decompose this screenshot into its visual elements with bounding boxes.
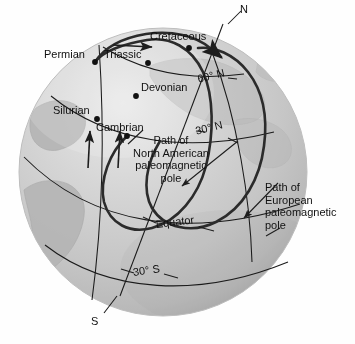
label-permian: Permian xyxy=(44,48,85,61)
era-dot-cretaceous xyxy=(186,45,192,51)
na-callout-line-3: paleomagnetic xyxy=(124,159,218,172)
eu-callout-line-1: Path of xyxy=(265,181,355,194)
era-dot-devonian xyxy=(133,93,139,99)
na-callout-line-4: pole xyxy=(124,172,218,185)
label-devonian: Devonian xyxy=(141,81,187,94)
eu-callout-line-2: European xyxy=(265,194,355,207)
era-dot-permian xyxy=(92,59,98,65)
label-pole-north: N xyxy=(240,3,248,16)
callout-european-path: Path of European paleomagnetic pole xyxy=(265,181,355,231)
eu-callout-line-3: paleomagnetic xyxy=(265,206,355,219)
polar-wander-figure: Cretaceous Triassic Permian Devonian Sil… xyxy=(0,0,355,344)
label-cretaceous: Cretaceous xyxy=(150,30,206,43)
label-triassic: Triassic xyxy=(104,48,141,61)
na-callout-line-1: Path of xyxy=(124,134,218,147)
label-silurian: Silurian xyxy=(53,104,90,117)
callout-north-american-path: Path of North American paleomagnetic pol… xyxy=(124,134,218,184)
na-callout-line-2: North American xyxy=(124,147,218,160)
era-dot-triassic xyxy=(145,60,151,66)
label-cambrian: Cambrian xyxy=(96,121,144,134)
label-pole-south: S xyxy=(91,315,98,328)
eu-callout-line-4: pole xyxy=(265,219,355,232)
